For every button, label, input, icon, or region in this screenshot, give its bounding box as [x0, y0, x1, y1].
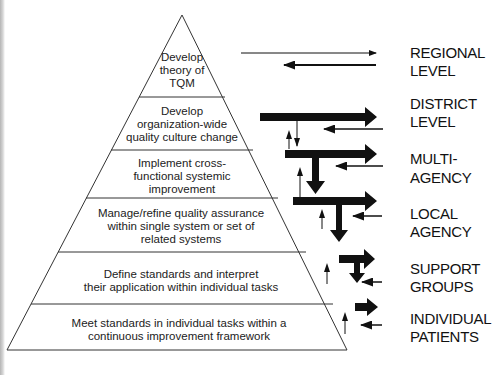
- local-agency-down-arrow-icon: [330, 205, 348, 242]
- tier-3-line-1: Implement cross-: [138, 157, 226, 169]
- tier-1-line-1: Develop: [161, 51, 203, 63]
- level-support-groups-line-1: SUPPORT: [410, 260, 480, 277]
- tier-3-line-3: improvement: [149, 183, 216, 195]
- multi-agency-down-arrow-icon: [306, 158, 325, 194]
- district-down-arrowhead-icon: [294, 138, 300, 147]
- tier-1-line-2: theory of: [160, 64, 206, 76]
- tier-6-line-1: Meet standards in individual tasks withi…: [72, 317, 287, 329]
- tier-4-line-2: within single system or set of: [106, 220, 255, 232]
- svg-text:DISTRICTLEVEL: DISTRICTLEVEL: [410, 95, 477, 130]
- patients-up-arrowhead-2-icon: [342, 312, 348, 321]
- tier-2-line-2: organization-wide: [137, 118, 227, 130]
- level-district-line-2: LEVEL: [410, 113, 455, 130]
- individual-patients-thick-right-arrow-icon: [355, 298, 378, 316]
- level-regional-line-2: LEVEL: [410, 62, 455, 79]
- local-agency-thick-right-arrow-icon: [293, 191, 377, 211]
- tier-2-line-1: Develop: [161, 105, 203, 117]
- svg-text:Manage/refine quality assuranc: Manage/refine quality assurancewithin si…: [98, 207, 264, 245]
- level-district-line-1: DISTRICT: [410, 95, 477, 112]
- level-multi-agency-line-1: MULTI-: [410, 150, 457, 167]
- svg-text:SUPPORTGROUPS: SUPPORTGROUPS: [410, 260, 480, 295]
- svg-text:MULTI-AGENCY: MULTI-AGENCY: [410, 150, 472, 186]
- tier-1: Developtheory ofTQM: [160, 51, 206, 89]
- tier-3: Implement cross-functional systemicimpro…: [133, 157, 230, 195]
- tier-2: Developorganization-widequality culture …: [126, 105, 238, 143]
- multi-up-arrowhead-icon: [286, 130, 292, 139]
- svg-text:LOCALAGENCY: LOCALAGENCY: [410, 205, 472, 240]
- tier-4-line-1: Manage/refine quality assurance: [98, 207, 264, 219]
- level-labels: REGIONALLEVEL DISTRICTLEVEL MULTI-AGENCY…: [410, 44, 491, 345]
- level-regional-line-1: REGIONAL: [410, 44, 485, 61]
- district-thick-right-arrow-icon: [260, 107, 377, 127]
- tier-5-line-2: their application within individual task…: [84, 281, 279, 293]
- svg-text:Developtheory ofTQM: Developtheory ofTQM: [160, 51, 206, 89]
- support-up-arrowhead-icon: [319, 209, 325, 218]
- level-individual-patients-line-1: INDIVIDUAL: [410, 310, 491, 327]
- svg-text:Meet standards in individual t: Meet standards in individual tasks withi…: [72, 317, 287, 342]
- level-local-agency-line-1: LOCAL: [410, 205, 458, 222]
- tqm-pyramid-diagram: Developtheory ofTQM Developorganization-…: [0, 0, 493, 375]
- multi-agency-thick-right-arrow-icon: [285, 144, 377, 164]
- support-groups-down-arrow-icon: [349, 263, 365, 283]
- level-multi-agency-line-2: AGENCY: [410, 169, 472, 186]
- patients-up-arrowhead-icon: [324, 263, 330, 272]
- tier-4: Manage/refine quality assurancewithin si…: [98, 207, 264, 245]
- tier-4-line-3: related systems: [141, 233, 222, 245]
- level-local-agency-line-2: AGENCY: [410, 223, 472, 240]
- svg-text:REGIONALLEVEL: REGIONALLEVEL: [410, 44, 485, 79]
- tier-6-line-2: continuous improvement framework: [88, 330, 270, 342]
- svg-text:INDIVIDUALPATIENTS: INDIVIDUALPATIENTS: [410, 310, 491, 345]
- local-up-arrowhead-icon: [297, 167, 303, 176]
- level-support-groups-line-2: GROUPS: [410, 278, 474, 295]
- tier-2-line-3: quality culture change: [126, 131, 238, 143]
- svg-text:Developorganization-widequalit: Developorganization-widequality culture …: [126, 105, 238, 143]
- tier-5-line-1: Define standards and interpret: [104, 268, 260, 280]
- tier-3-line-2: functional systemic: [133, 170, 230, 182]
- tier-6: Meet standards in individual tasks withi…: [72, 317, 287, 342]
- tier-1-line-3: TQM: [169, 77, 195, 89]
- svg-text:Define standards and interpret: Define standards and interprettheir appl…: [84, 268, 279, 293]
- tier-5: Define standards and interprettheir appl…: [84, 268, 279, 293]
- level-individual-patients-line-2: PATIENTS: [410, 328, 479, 345]
- svg-text:Implement cross-functional sys: Implement cross-functional systemicimpro…: [133, 157, 230, 195]
